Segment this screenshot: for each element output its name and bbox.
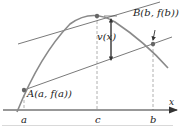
label-x-axis: x — [169, 97, 174, 107]
bottom-divider — [2, 125, 173, 126]
label-vx: v(x) — [97, 31, 116, 42]
label-tick-b: b — [150, 114, 156, 125]
mvt-diagram: A(a, f(a)) B(b, f(b)) v(x) x a c b — [0, 0, 179, 127]
label-tick-c: c — [95, 114, 101, 125]
label-tick-a: a — [21, 114, 27, 125]
point-b — [151, 42, 155, 46]
label-point-a: A(a, f(a)) — [26, 88, 72, 99]
point-a — [22, 88, 26, 92]
b-pointer-arrow — [153, 30, 155, 40]
secant-line — [24, 37, 172, 90]
label-point-b: B(b, f(b)) — [132, 7, 179, 18]
point-c — [95, 14, 99, 18]
